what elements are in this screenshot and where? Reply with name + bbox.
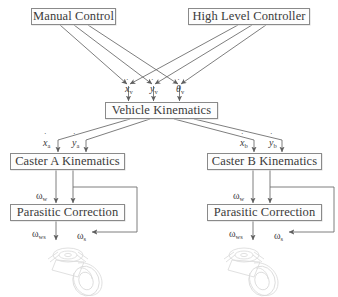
block-manual-control[interactable]: Manual Control <box>31 8 116 25</box>
signal-label-x-dot-b: x˙b <box>240 138 248 148</box>
signal-label-omega-ws: ωws <box>32 229 46 239</box>
signal-label-theta-dot-v: θ˙v <box>176 84 184 94</box>
signal-label-x-dot-v: x˙v <box>125 84 133 94</box>
caster-wheel-a <box>28 243 132 297</box>
signal-label-y-dot-b: y˙b <box>269 138 277 148</box>
edge-hlc-to-vehicle-group <box>130 25 266 84</box>
edge-vehicle-to-caster-b <box>174 119 282 152</box>
signal-label-omega-s: ωs <box>77 231 86 241</box>
block-caster-b-kinematics[interactable]: Caster B Kinematics <box>207 153 322 170</box>
signal-label-x-dot-a: x˙a <box>43 138 50 148</box>
block-vehicle-kinematics[interactable]: Vehicle Kinematics <box>105 102 218 119</box>
signal-label-omega-w: ωw <box>36 191 47 201</box>
signal-label-y-dot-a: y˙a <box>72 138 79 148</box>
block-manual-control-label: Manual Control <box>33 10 114 23</box>
edge-caster-b-to-parasitic-b <box>253 170 270 203</box>
block-high-level-controller-label: High Level Controller <box>192 10 305 23</box>
edge-caster-a-to-parasitic-a <box>56 170 73 203</box>
edge-manual-to-vehicle-group <box>60 25 178 84</box>
block-parasitic-correction-a[interactable]: Parasitic Correction <box>10 204 125 221</box>
caster-wheel-b <box>204 243 308 297</box>
block-caster-a-kinematics-label: Caster A Kinematics <box>15 155 120 168</box>
block-caster-a-kinematics[interactable]: Caster A Kinematics <box>10 153 125 170</box>
block-diagram: Manual Control High Level Controller Veh… <box>0 0 338 297</box>
block-parasitic-correction-b[interactable]: Parasitic Correction <box>207 204 322 221</box>
block-parasitic-correction-a-label: Parasitic Correction <box>17 206 119 219</box>
block-parasitic-correction-b-label: Parasitic Correction <box>214 206 316 219</box>
block-high-level-controller[interactable]: High Level Controller <box>188 8 310 25</box>
block-vehicle-kinematics-label: Vehicle Kinematics <box>112 104 211 117</box>
block-caster-b-kinematics-label: Caster B Kinematics <box>212 155 317 168</box>
signal-label-omega-w: ωw <box>233 191 244 201</box>
signal-label-y-dot-v: y˙v <box>150 84 158 94</box>
signal-label-omega-ws: ωws <box>229 229 243 239</box>
signal-label-omega-s: ωs <box>274 231 283 241</box>
